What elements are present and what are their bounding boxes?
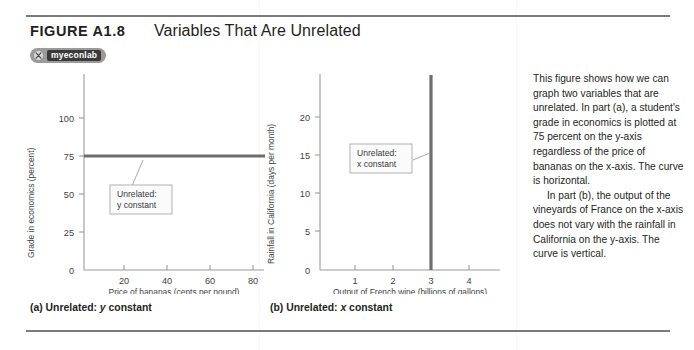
panel-caption-b: (b) Unrelated: x constant [270,302,392,313]
chart-a-y-axis-label: Grade in economics (percent) [26,147,36,258]
chart-b-ytick-label-15: 15 [300,151,310,161]
figure-top-rule [26,15,670,17]
scan-seam-right [516,0,517,350]
chart-a-callout-line2: y constant [117,200,157,210]
panel-caption-b-suffix: constant [346,302,392,313]
chart-b-ytick-label-10: 10 [300,189,310,199]
panel-caption-a-suffix: constant [106,302,152,313]
chart-a-x-axis-label: Price of bananas (cents per pound) [109,287,240,295]
chart-a-callout-line1: Unrelated: [117,189,157,199]
chart-b-ytick-label-20: 20 [300,113,310,123]
chart-b-y-axis-label: Rainfall in California (days per month) [266,124,276,264]
myeconlab-label: myeconlab [47,50,101,61]
chart-a-callout-leader [132,160,143,186]
myeconlab-x-icon [33,50,44,61]
chart-b-xtick-label-3: 3 [428,276,433,286]
chart-b-callout: Unrelated: x constant [350,144,412,173]
panel-caption-b-prefix: (b) Unrelated: [270,302,340,313]
figure-bottom-rule [26,330,670,332]
chart-a-ytick-label-100: 100 [59,114,74,124]
chart-b-xtick-label-2: 2 [390,276,395,286]
body-paragraph-2: In part (b), the output of the vineyards… [533,189,685,262]
figure-number: FIGURE A1.8 [30,23,126,39]
chart-b-callout-leader [413,153,430,160]
chart-panel-a: Grade in economics (percent) 100 75 50 2… [22,68,272,294]
figure-title: Variables That Are Unrelated [154,22,361,39]
figure-header: FIGURE A1.8 Variables That Are Unrelated [30,22,530,46]
body-paragraph-1: This figure shows how we can graph two v… [533,72,685,189]
chart-a-xtick-label-20: 20 [119,276,129,286]
chart-b-callout-line1: Unrelated: [357,148,397,158]
panel-caption-a: (a) Unrelated: y constant [30,302,152,313]
chart-a-xtick-label-40: 40 [162,276,172,286]
panel-caption-a-prefix: (a) Unrelated: [30,302,100,313]
chart-panel-b: Rainfall in California (days per month) … [262,68,512,294]
chart-b-svg: Rainfall in California (days per month) … [262,68,512,294]
chart-a-ytick-label-25: 25 [64,228,74,238]
chart-a-xtick-label-80: 80 [248,276,258,286]
chart-b-callout-line2: x constant [357,159,397,169]
chart-a-svg: Grade in economics (percent) 100 75 50 2… [22,68,272,294]
chart-b-xtick-label-1: 1 [352,276,357,286]
figure-body-text: This figure shows how we can graph two v… [533,72,685,262]
chart-a-callout: Unrelated: y constant [110,185,172,214]
chart-a-xtick-label-60: 60 [205,276,215,286]
chart-a-ytick-label-50: 50 [64,190,74,200]
chart-b-ytick-label-5: 5 [305,227,310,237]
chart-a-ytick-label-75: 75 [64,152,74,162]
scan-seam-left [259,0,260,350]
myeconlab-badge[interactable]: myeconlab [30,48,106,63]
figure-container: FIGURE A1.8 Variables That Are Unrelated… [0,0,694,350]
chart-b-origin-label: 0 [305,266,310,276]
chart-a-origin-label: 0 [69,266,74,276]
chart-b-xtick-label-4: 4 [466,276,471,286]
chart-b-x-axis-label: Output of French wine (billions of gallo… [333,287,487,295]
